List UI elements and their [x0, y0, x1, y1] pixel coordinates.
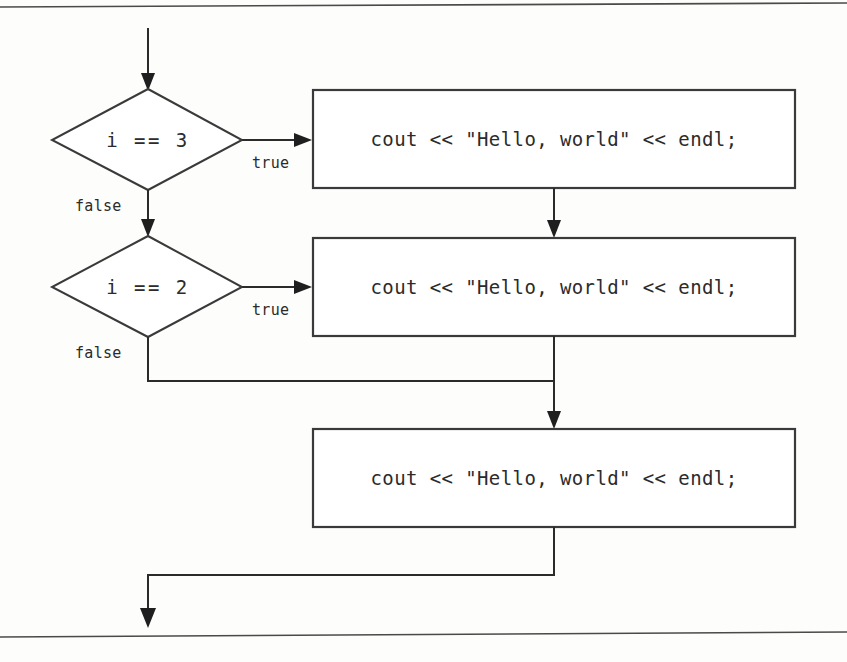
edge-merge-to-process3	[547, 336, 561, 429]
flowchart-diagram: i == 3 true cout << "Hello, world" << en…	[0, 0, 847, 662]
process-node-1[interactable]: cout << "Hello, world" << endl;	[313, 90, 795, 188]
decision-node-2[interactable]: i == 2	[52, 236, 242, 337]
arrowhead-process1-to-process2	[547, 220, 561, 238]
edge-exit	[140, 527, 554, 628]
edge-decision2-true: true	[242, 280, 312, 319]
flowchart-canvas: i == 3 true cout << "Hello, world" << en…	[0, 0, 847, 662]
process-node-3[interactable]: cout << "Hello, world" << endl;	[313, 429, 795, 527]
arrowhead-decision1-false	[141, 219, 155, 237]
edge-entry	[141, 28, 155, 91]
edge-label-decision1-true: true	[252, 154, 289, 172]
process-2-label: cout << "Hello, world" << endl;	[370, 276, 737, 298]
arrowhead-exit	[140, 608, 156, 628]
edge-label-decision1-false: false	[75, 197, 122, 215]
decision-node-1[interactable]: i == 3	[52, 89, 242, 190]
decision-2-label: i == 2	[106, 276, 190, 298]
arrowhead-decision2-true	[294, 280, 312, 294]
edge-decision1-true: true	[242, 133, 312, 172]
decision-1-label: i == 3	[106, 129, 190, 151]
process-node-2[interactable]: cout << "Hello, world" << endl;	[313, 238, 795, 336]
page-rule-bottom	[0, 632, 847, 637]
edge-label-decision2-true: true	[252, 301, 289, 319]
arrowhead-decision1-true	[294, 133, 312, 147]
edge-decision2-false: false	[75, 337, 554, 381]
edge-process1-to-process2	[547, 188, 561, 238]
process-3-label: cout << "Hello, world" << endl;	[370, 467, 737, 489]
edge-decision1-false: false	[75, 190, 155, 237]
process-1-label: cout << "Hello, world" << endl;	[370, 128, 737, 150]
page-rule-top	[0, 3, 847, 7]
edge-label-decision2-false: false	[75, 344, 122, 362]
arrowhead-merge-to-process3	[547, 411, 561, 429]
